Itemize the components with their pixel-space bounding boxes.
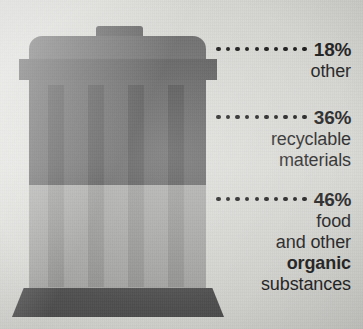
callout-organic-percent: 46% — [314, 190, 351, 209]
leader-dot — [293, 47, 297, 51]
callout-recyclable: 36% recyclable materials — [216, 108, 351, 171]
leader-dot — [216, 47, 220, 51]
callout-recyclable-head: 36% — [216, 108, 351, 127]
leader-dot — [264, 115, 268, 119]
leader-dot — [302, 115, 306, 119]
leader-dot — [226, 47, 230, 51]
bin-rib-lower-3 — [128, 185, 144, 287]
bin-base — [12, 288, 224, 317]
leader-dot — [235, 197, 239, 201]
callout-other-head: 18% — [216, 40, 351, 59]
leader-dot — [245, 47, 249, 51]
callout-recyclable-line-2: materials — [216, 150, 351, 171]
leader-dot — [274, 47, 278, 51]
leader-dot — [255, 115, 259, 119]
leader-dot — [302, 197, 306, 201]
leader-dot — [264, 197, 268, 201]
leader-dot — [226, 115, 230, 119]
leader-dots-recyclable — [216, 115, 307, 119]
callout-organic-head: 46% — [216, 190, 351, 209]
callout-organic-line-3: organic — [216, 253, 351, 274]
leader-dot — [283, 47, 287, 51]
trash-bin-illustration — [0, 0, 240, 329]
callout-recyclable-line-1: recyclable — [216, 129, 351, 150]
leader-dot — [264, 47, 268, 51]
bin-rib-upper-3 — [128, 85, 144, 185]
callout-other: 18% other — [216, 40, 351, 82]
leader-dot — [245, 115, 249, 119]
leader-dot — [255, 197, 259, 201]
leader-dot — [216, 115, 220, 119]
bin-rib-lower-4 — [168, 185, 184, 287]
callout-organic-lines: food and other organic substances — [216, 211, 351, 295]
callout-organic-line-2: and other — [216, 232, 351, 253]
leader-dot — [293, 197, 297, 201]
leader-dot — [235, 47, 239, 51]
leader-dot — [283, 197, 287, 201]
callout-other-lines: other — [216, 61, 351, 82]
leader-dot — [235, 115, 239, 119]
leader-dots-other — [216, 47, 307, 51]
callout-recyclable-percent: 36% — [314, 108, 351, 127]
bin-rib-lower-2 — [88, 185, 104, 287]
leader-dot — [283, 115, 287, 119]
bin-rib-upper-2 — [88, 85, 104, 185]
leader-dot — [245, 197, 249, 201]
callout-organic-line-4: substances — [216, 274, 351, 295]
leader-dot — [274, 197, 278, 201]
bin-rim — [19, 59, 217, 80]
leader-dot — [293, 115, 297, 119]
leader-dot — [302, 47, 306, 51]
leader-dot — [274, 115, 278, 119]
bin-rib-upper-1 — [48, 85, 64, 185]
callout-other-line-1: other — [216, 61, 351, 82]
leader-dot — [255, 47, 259, 51]
leader-dots-organic — [216, 197, 307, 201]
leader-dot — [216, 197, 220, 201]
bin-rib-upper-4 — [168, 85, 184, 185]
callout-organic-line-1: food — [216, 211, 351, 232]
callout-organic: 46% food and other organic substances — [216, 190, 351, 295]
callout-recyclable-lines: recyclable materials — [216, 129, 351, 171]
callout-other-percent: 18% — [314, 40, 351, 59]
leader-dot — [226, 197, 230, 201]
bin-rib-lower-1 — [48, 185, 64, 287]
waste-composition-infographic: 18% other 36% recyclable materials 46% f… — [0, 0, 363, 329]
